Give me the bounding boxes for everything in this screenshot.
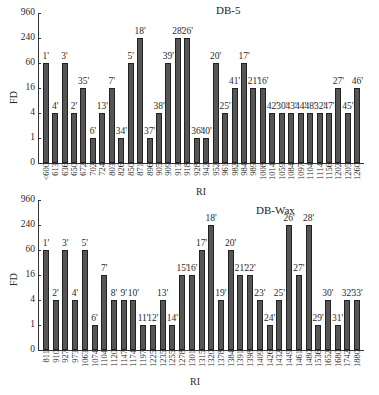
bar [260,88,266,163]
bar-label: 13' [151,288,175,298]
x-tick-label: 1197 [138,350,148,376]
x-tick-label: 1398 [245,350,255,376]
bar [62,63,68,163]
bar-label: 33' [345,288,369,298]
x-tick-label: 1378 [216,350,226,376]
y-tick [38,13,41,14]
bar-label: 46' [345,76,369,86]
x-tick-label: 1202 [333,163,343,189]
bar-label: 18' [128,26,152,36]
x-tick-label: 1174 [128,350,138,376]
y-tick-label: 4 [9,107,35,117]
x-tick-label: 1742 [342,350,352,376]
bar [121,300,127,350]
y-tick-label: 0 [9,157,35,167]
bar [335,88,341,163]
bar [279,113,285,163]
bar [298,113,304,163]
bar-label: 7' [100,76,124,86]
bar-label: 7' [92,263,116,273]
bar [128,63,134,163]
bar-label: 22' [238,263,262,273]
y-tick [38,300,41,301]
x-tick-label: 1301 [187,350,197,376]
x-tick-label: 1074 [90,350,100,376]
bar [296,275,302,350]
x-tick-label: 724 [97,163,107,189]
bar [137,38,143,163]
bar [150,325,156,350]
bar [354,88,360,163]
bar-label: 20' [219,238,243,248]
bar-label: 10' [121,288,145,298]
bar [52,113,58,163]
y-tick-label: 960 [9,194,35,204]
bar-label: 28' [297,213,321,223]
y-tick [38,88,41,89]
bar [156,113,162,163]
bar [213,63,219,163]
bar [169,325,175,350]
bar [276,300,282,350]
bar [194,138,200,163]
x-tick-label: 942 [201,163,211,189]
bar [269,113,275,163]
y-tick-label: 16 [9,82,35,92]
y-tick-label: 60 [9,57,35,67]
bar [218,300,224,350]
bar [288,113,294,163]
bar [247,275,253,350]
bar [326,113,332,163]
bar-label: 3' [53,51,77,61]
x-tick-label: 811 [41,350,51,376]
y-tick-label: 240 [9,32,35,42]
x-tick-label: 989 [248,163,258,189]
bar [184,38,190,163]
x-axis-label: RI [190,376,200,387]
y-tick [38,225,41,226]
y-tick-label: 1 [9,132,35,142]
bar-label: 17' [232,51,256,61]
x-tick-label: 1480 [304,350,314,376]
bar [92,325,98,350]
bar [257,300,263,350]
bar [306,225,312,350]
bar [267,325,273,350]
x-tick-label: 672 [78,163,88,189]
x-tick-label: 1278 [177,350,187,376]
bar [354,300,360,350]
bar [130,300,136,350]
chart-dbwax: DB-Wax FD RI 0141660240960 1'8112'9103'9… [0,188,379,395]
y-tick-label: 1 [9,319,35,329]
y-axis-label: FD [8,91,19,104]
y-tick-label: 0 [9,344,35,354]
x-tick-label: 1014 [267,163,277,189]
bar-label: 35' [71,76,95,86]
bar [189,275,195,350]
x-tick-label: 1255 [167,350,177,376]
bar [237,275,243,350]
y-tick-label: 4 [9,294,35,304]
bar [90,138,96,163]
bar [250,88,256,163]
x-tick-label: 918 [182,163,192,189]
x-tick-label: 1114 [315,163,325,189]
bar [82,250,88,350]
chart-title: DB-5 [216,4,240,16]
x-tick-label: 826 [116,163,126,189]
bar [71,113,77,163]
bar [99,113,105,163]
x-tick-label: 1225 [148,350,158,376]
y-tick-label: 240 [9,219,35,229]
bar [222,113,228,163]
bar-label: 26' [175,26,199,36]
bar [147,138,153,163]
x-tick-label: 1315 [197,350,207,376]
bar [43,250,49,350]
bar [160,300,166,350]
bar-label: 18' [199,213,223,223]
x-tick-label: 1432 [274,350,284,376]
x-tick-label: 1536 [313,350,323,376]
chart-db5: DB-5 FD RI 0141660240960 1'<6004'6133'63… [0,0,379,197]
x-tick-label: 1260 [352,163,362,189]
